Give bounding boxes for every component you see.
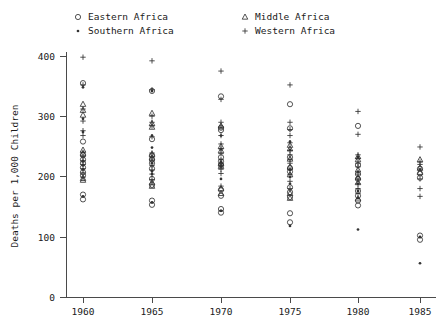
data-point-plus	[218, 171, 223, 176]
legend-label-middle: Middle Africa	[255, 11, 329, 22]
data-point-plus	[355, 164, 360, 169]
data-point-plus	[149, 171, 154, 176]
data-point-plus	[355, 186, 360, 191]
circle-icon	[75, 14, 80, 19]
series-southern-africa	[82, 86, 422, 265]
y-tick-label: 400	[38, 51, 55, 62]
data-point-plus	[218, 141, 223, 146]
data-point-circle	[355, 123, 360, 128]
data-point-plus	[417, 176, 422, 181]
data-point-diamond	[82, 195, 85, 198]
data-point-plus	[355, 109, 360, 114]
diamond-icon	[77, 30, 80, 33]
data-point-diamond	[220, 209, 223, 212]
plus-icon	[242, 28, 247, 33]
data-point-plus	[287, 127, 292, 132]
series-eastern-africa	[80, 81, 422, 243]
data-point-plus	[80, 55, 85, 60]
y-tick-label: 0	[49, 292, 55, 303]
legend: Eastern AfricaMiddle AfricaSouthern Afri…	[75, 11, 335, 36]
data-point-diamond	[357, 197, 360, 200]
data-point-plus	[218, 133, 223, 138]
plot-svg: Eastern AfricaMiddle AfricaSouthern Afri…	[0, 0, 443, 330]
data-point-diamond	[151, 201, 154, 204]
data-point-triangle	[80, 112, 86, 117]
data-point-plus	[218, 120, 223, 125]
x-tick-label: 1985	[409, 306, 432, 317]
data-point-plus	[149, 87, 154, 92]
data-point-plus	[80, 82, 85, 87]
data-point-triangle	[80, 101, 86, 106]
data-point-diamond	[289, 225, 292, 228]
data-point-diamond	[151, 146, 154, 149]
data-point-plus	[80, 128, 85, 133]
data-point-plus	[149, 134, 154, 139]
data-point-circle	[287, 211, 292, 216]
data-point-plus	[355, 191, 360, 196]
data-point-plus	[287, 140, 292, 145]
data-point-circle	[80, 139, 85, 144]
triangle-icon	[242, 14, 248, 19]
data-point-circle	[287, 220, 292, 225]
x-tick-label: 1970	[210, 306, 233, 317]
y-axis-title: Deaths per 1,000 Children	[9, 105, 20, 248]
data-points	[80, 55, 423, 265]
data-point-plus	[287, 179, 292, 184]
x-tick-label: 1960	[72, 306, 95, 317]
data-point-diamond	[220, 178, 223, 181]
legend-label-eastern: Eastern Africa	[88, 11, 168, 22]
data-point-plus	[80, 118, 85, 123]
x-tick-label: 1975	[279, 306, 302, 317]
data-point-plus	[355, 132, 360, 137]
data-point-plus	[287, 82, 292, 87]
y-tick-label: 200	[38, 171, 55, 182]
data-point-plus	[287, 133, 292, 138]
axis-labels: 0100200300400196019651970197519801985Dea…	[9, 51, 431, 318]
x-tick-label: 1965	[141, 306, 164, 317]
data-point-diamond	[419, 235, 422, 238]
data-point-diamond	[419, 168, 422, 171]
data-point-plus	[417, 144, 422, 149]
series-western-africa	[80, 55, 422, 200]
y-tick-label: 300	[38, 111, 55, 122]
legend-label-western: Western Africa	[255, 25, 335, 36]
axes	[60, 52, 436, 303]
data-point-plus	[80, 133, 85, 138]
data-point-plus	[287, 120, 292, 125]
x-tick-label: 1980	[347, 306, 370, 317]
data-point-circle	[287, 102, 292, 107]
legend-label-southern: Southern Africa	[88, 25, 174, 36]
data-point-diamond	[419, 262, 422, 265]
data-point-plus	[218, 68, 223, 73]
data-point-plus	[287, 152, 292, 157]
data-point-plus	[417, 186, 422, 191]
data-point-plus	[355, 181, 360, 186]
scatter-chart: Eastern AfricaMiddle AfricaSouthern Afri…	[0, 0, 443, 330]
data-point-diamond	[357, 228, 360, 231]
y-tick-label: 100	[38, 232, 55, 243]
data-point-plus	[149, 58, 154, 63]
series-middle-africa	[80, 101, 423, 201]
data-point-plus	[417, 194, 422, 199]
